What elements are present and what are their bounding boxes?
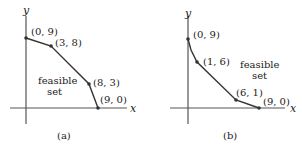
x-axis-label-b: x [290,102,297,115]
figure-a: y x (0, 9) (3, 8) (8, 3) (9, 0) feasible… [10,4,137,141]
point-b-1 [195,60,199,64]
point-label-b-1: (1, 6) [203,56,230,67]
region-label-a-line2: set [47,86,62,97]
y-axis-label-b: y [184,7,192,20]
point-b-2 [234,98,238,102]
point-b-0 [186,37,190,41]
region-label-b-line1: feasible [240,59,280,70]
caption-b: (b) [223,130,237,141]
region-label-a-line1: feasible [38,75,78,86]
caption-a: (a) [57,130,71,141]
point-label-a-0: (0, 9) [31,26,58,37]
region-label-b-line2: set [252,70,267,81]
point-a-0 [24,36,28,40]
figure-b: y x (0, 9) (1, 6) (6, 1) (9, 0) feasible… [170,7,297,141]
point-label-a-2: (8, 3) [93,77,120,88]
boundary-a [26,38,98,108]
point-label-a-3: (9, 0) [100,94,127,105]
point-b-3 [257,106,261,110]
point-a-3 [96,106,100,110]
point-label-b-3: (9, 0) [263,96,290,107]
point-label-b-0: (0, 9) [193,29,220,40]
point-label-b-2: (6, 1) [236,87,263,98]
point-a-1 [49,44,53,48]
point-a-2 [87,82,91,86]
y-axis-label-a: y [22,4,30,17]
feasible-set-diagram: y x (0, 9) (3, 8) (8, 3) (9, 0) feasible… [0,0,302,149]
point-label-a-1: (3, 8) [55,37,82,48]
x-axis-label-a: x [130,102,137,115]
